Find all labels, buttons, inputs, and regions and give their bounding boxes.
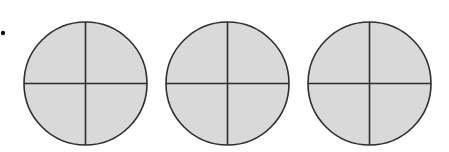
circles-group xyxy=(24,22,431,145)
fraction-circle-2 xyxy=(166,22,289,145)
list-bullet-dot xyxy=(1,31,5,35)
fraction-circles-figure xyxy=(0,0,449,152)
fraction-circle-3 xyxy=(308,22,431,145)
fraction-circle-1 xyxy=(24,22,147,145)
